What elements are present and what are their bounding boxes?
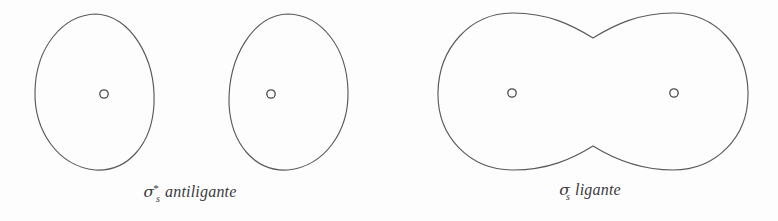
nucleus-marker-bonding-right (670, 89, 678, 97)
caption-antibonding: σ*santiligante (60, 181, 320, 203)
s-subscript-antibonding: s (156, 193, 160, 204)
s-subscript-bonding: s (566, 191, 570, 202)
antibonding-right-lobe-outline (229, 14, 348, 170)
bonding-orbital-outline (438, 13, 748, 170)
nucleus-marker-antibonding-left (100, 90, 108, 98)
nucleus-marker-bonding-left (508, 89, 516, 97)
caption-word-antibonding: antiligante (164, 183, 237, 200)
caption-bonding: σsligante (460, 181, 720, 201)
antibonding-left-lobe-outline (35, 14, 154, 170)
orbital-diagram-figure: σ*santiligante σsligante (0, 0, 778, 221)
nucleus-marker-antibonding-right (267, 90, 275, 98)
caption-word-bonding: ligante (574, 181, 621, 198)
